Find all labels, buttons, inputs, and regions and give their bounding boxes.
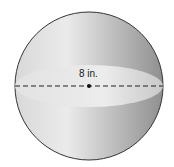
center-point <box>87 84 91 88</box>
sphere-diagram <box>0 0 174 167</box>
diameter-label: 8 in. <box>79 68 98 79</box>
